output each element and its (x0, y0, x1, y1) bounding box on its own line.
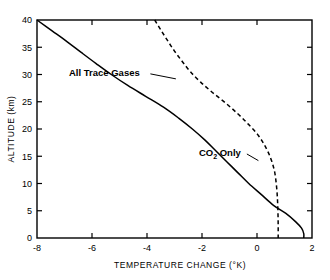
y-tick-label: 15 (22, 152, 32, 162)
y-tick-label: 10 (22, 179, 32, 189)
y-tick-label: 30 (22, 70, 32, 80)
x-tick-label: -4 (143, 243, 151, 253)
y-tick-label: 20 (22, 124, 32, 134)
y-tick-label: 5 (27, 206, 32, 216)
x-tick-labels: -8-6-4-202 (33, 243, 315, 253)
x-tick-label: -8 (33, 243, 41, 253)
series-paths (37, 20, 304, 238)
y-tick-labels: 0510152025303540 (22, 15, 32, 243)
x-tick-label: 0 (254, 243, 259, 253)
series-line-co2-only (155, 20, 278, 238)
y-tick-label: 25 (22, 97, 32, 107)
plot-frame (37, 20, 312, 238)
series-label-co2-only: CO2 Only (199, 147, 242, 160)
axis-ticks (37, 20, 312, 238)
y-tick-label: 35 (22, 43, 32, 53)
chart-figure: -8-6-4-202 0510152025303540 TEMPERATURE … (0, 0, 330, 280)
x-tick-label: 2 (309, 243, 314, 253)
y-tick-label: 40 (22, 15, 32, 25)
x-tick-label: -2 (198, 243, 206, 253)
series-line-all-trace-gases (37, 20, 304, 238)
series-label-all-trace-gases: All Trace Gases (69, 67, 140, 78)
line-chart: -8-6-4-202 0510152025303540 TEMPERATURE … (0, 0, 330, 280)
x-axis-title: TEMPERATURE CHANGE (°K) (114, 260, 246, 270)
y-axis-title: ALTITUDE (km) (6, 96, 16, 163)
x-tick-label: -6 (88, 243, 96, 253)
y-tick-label: 0 (27, 233, 32, 243)
